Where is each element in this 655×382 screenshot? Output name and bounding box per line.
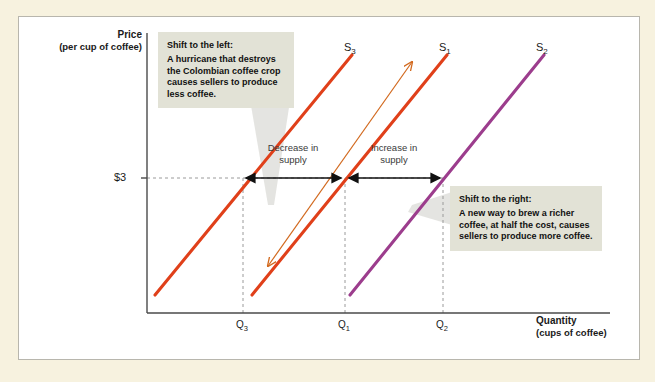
decrease-in-supply-line2: supply bbox=[279, 154, 306, 165]
x-axis-title: Quantity bbox=[536, 315, 626, 327]
increase-in-supply-line2: supply bbox=[380, 154, 407, 165]
x-axis-subtitle: (cups of coffee) bbox=[536, 327, 640, 339]
supply-curve-s2 bbox=[350, 55, 544, 295]
x-tick-label-q3: Q3 bbox=[236, 319, 248, 333]
callout-shift-left-heading: Shift to the left: bbox=[167, 39, 285, 52]
callout-shift-right-body: A new way to brew a richer coffee, at ha… bbox=[459, 208, 593, 243]
curve-label-s1: S1 bbox=[439, 41, 451, 56]
decrease-in-supply-label: Decrease insupply bbox=[247, 142, 339, 165]
x-tick-label-q2: Q2 bbox=[436, 319, 448, 333]
callout-shift-right: Shift to the right: A new way to brew a … bbox=[450, 186, 602, 251]
y-axis-title: Price bbox=[46, 29, 142, 41]
callout-shift-left: Shift to the left: A hurricane that dest… bbox=[158, 32, 294, 108]
increase-in-supply-line1: Increase in bbox=[371, 142, 417, 153]
increase-in-supply-label: Increase insupply bbox=[348, 142, 440, 165]
decrease-in-supply-line1: Decrease in bbox=[268, 142, 319, 153]
curve-label-s3: S3 bbox=[344, 41, 356, 56]
y-axis-subtitle: (per cup of coffee) bbox=[30, 41, 142, 53]
callout-shift-left-body: A hurricane that destroys the Colombian … bbox=[167, 54, 285, 100]
callout-shift-right-heading: Shift to the right: bbox=[459, 193, 593, 206]
x-tick-label-q1: Q1 bbox=[338, 319, 350, 333]
curve-label-s2: S2 bbox=[536, 41, 548, 56]
figure-container: Price (per cup of coffee) $3 Quantity (c… bbox=[0, 0, 655, 382]
y-tick-label-3: $3 bbox=[114, 171, 126, 183]
